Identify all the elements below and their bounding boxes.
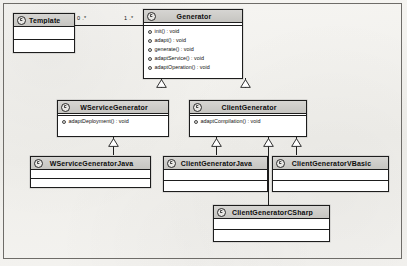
visibility-dot-icon (148, 57, 152, 61)
class-circle-icon (167, 159, 176, 168)
class-circle-icon (34, 159, 43, 168)
class-attributes-wservicegeneratorjava (31, 170, 150, 179)
class-header-wservicegeneratorjava: WServiceGeneratorJava (31, 157, 150, 170)
uml-class-diagram-canvas: 0 .* 1 .* Template Generator init() : vo… (0, 0, 407, 266)
association-target-multiplicity: 1 .* (124, 16, 134, 22)
hollow-triangle-icon-clientgeneratorvbasic (291, 138, 302, 147)
class-box-clientgeneratorcsharp[interactable]: ClientGeneratorCSharp (213, 205, 330, 242)
visibility-dot-icon (194, 120, 198, 124)
class-name-template: Template (26, 17, 74, 24)
operation-row: adapt() : void (144, 36, 242, 45)
class-circle-icon (193, 103, 202, 112)
class-operations-clientgeneratorcsharp (214, 230, 329, 241)
visibility-dot-icon (62, 120, 66, 124)
class-operations-template (14, 40, 74, 52)
visibility-dot-icon (148, 30, 152, 34)
class-circle-icon (61, 103, 70, 112)
class-circle-icon (276, 159, 285, 168)
class-circle-icon (217, 208, 226, 217)
class-header-clientgeneratorcsharp: ClientGeneratorCSharp (214, 206, 329, 219)
class-box-wservicegenerator[interactable]: WServiceGenerator adaptDeployment() : vo… (57, 100, 169, 137)
class-name-clientgeneratorvbasic: ClientGeneratorVBasic (285, 160, 388, 167)
visibility-dot-icon (148, 66, 152, 70)
operation-label: adaptService() : void (155, 56, 204, 61)
class-header-generator: Generator (144, 10, 242, 23)
operation-label: adapt() : void (155, 38, 186, 43)
class-name-generator: Generator (156, 13, 242, 20)
class-name-wservicegeneratorjava: WServiceGeneratorJava (43, 160, 150, 167)
operation-label: adaptCompilation() : void (201, 119, 261, 124)
association-line-template-generator (75, 25, 143, 26)
class-attributes-clientgeneratorcsharp (214, 219, 329, 230)
operation-row: adaptDeployment() : void (58, 117, 168, 126)
hollow-triangle-icon-clientgeneratorcsharp (263, 138, 274, 147)
operation-label: generate() : void (155, 47, 194, 52)
class-name-clientgeneratorcsharp: ClientGeneratorCSharp (226, 209, 329, 216)
operation-label: init() : void (155, 29, 180, 34)
class-circle-icon (147, 12, 156, 21)
hollow-triangle-icon-wservicegenerator (156, 79, 167, 88)
operation-row: adaptCompilation() : void (190, 117, 306, 126)
operation-row: init() : void (144, 27, 242, 36)
class-circle-icon (17, 16, 26, 25)
class-attributes-clientgeneratorvbasic (273, 170, 388, 181)
visibility-dot-icon (148, 48, 152, 52)
operation-row: adaptOperation() : void (144, 63, 242, 72)
operation-row: adaptService() : void (144, 54, 242, 63)
generalization-line-clientgeneratorcsharp (268, 137, 269, 205)
class-box-generator[interactable]: Generator init() : void adapt() : void g… (143, 9, 243, 79)
class-operations-clientgeneratorvbasic (273, 181, 388, 191)
class-operations-wservicegenerator: adaptDeployment() : void (58, 116, 168, 136)
class-operations-wservicegeneratorjava (31, 179, 150, 187)
operation-label: adaptDeployment() : void (69, 119, 129, 124)
class-operations-clientgenerator: adaptCompilation() : void (190, 116, 306, 136)
class-operations-clientgeneratorjava (164, 181, 267, 191)
operation-row: generate() : void (144, 45, 242, 54)
class-box-clientgeneratorjava[interactable]: ClientGeneratorJava (163, 156, 268, 192)
class-name-clientgenerator: ClientGenerator (202, 104, 306, 111)
association-source-multiplicity: 0 .* (77, 16, 87, 22)
class-header-template: Template (14, 14, 74, 27)
hollow-triangle-icon-clientgeneratorjava (211, 138, 222, 147)
class-header-clientgeneratorjava: ClientGeneratorJava (164, 157, 267, 170)
operation-label: adaptOperation() : void (155, 65, 210, 70)
hollow-triangle-icon-clientgenerator (240, 79, 251, 88)
class-box-clientgenerator[interactable]: ClientGenerator adaptCompilation() : voi… (189, 100, 307, 137)
class-header-clientgeneratorvbasic: ClientGeneratorVBasic (273, 157, 388, 170)
class-attributes-template (14, 27, 74, 40)
class-operations-generator: init() : void adapt() : void generate() … (144, 26, 242, 78)
hollow-triangle-icon-wservicegeneratorjava (108, 138, 119, 147)
class-box-wservicegeneratorjava[interactable]: WServiceGeneratorJava (30, 156, 151, 188)
class-name-clientgeneratorjava: ClientGeneratorJava (176, 160, 267, 167)
class-header-wservicegenerator: WServiceGenerator (58, 101, 168, 114)
class-attributes-clientgeneratorjava (164, 170, 267, 181)
class-box-template[interactable]: Template (13, 13, 75, 53)
class-box-clientgeneratorvbasic[interactable]: ClientGeneratorVBasic (272, 156, 389, 192)
visibility-dot-icon (148, 39, 152, 43)
class-header-clientgenerator: ClientGenerator (190, 101, 306, 114)
class-name-wservicegenerator: WServiceGenerator (70, 104, 168, 111)
